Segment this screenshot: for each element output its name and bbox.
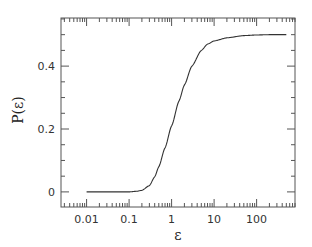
x-tick-label: 10 [207, 213, 221, 226]
data-line [87, 35, 287, 192]
y-tick-label: 0.2 [38, 123, 56, 136]
plot-frame [61, 18, 295, 207]
x-tick-label: 100 [246, 213, 267, 226]
axis-ticks [61, 18, 295, 207]
chart-figure: 0.010.1110100 00.20.4 ε P(ε) [0, 0, 312, 247]
y-axis-label: P(ε) [10, 96, 26, 124]
x-tick-label: 0.01 [74, 213, 99, 226]
x-tick-label: 0.1 [120, 213, 138, 226]
x-tick-labels: 0.010.1110100 [74, 213, 267, 226]
y-tick-labels: 00.20.4 [38, 60, 56, 199]
y-tick-label: 0 [48, 186, 55, 199]
x-tick-label: 1 [168, 213, 175, 226]
y-tick-label: 0.4 [38, 60, 56, 73]
x-axis-label: ε [174, 227, 181, 243]
